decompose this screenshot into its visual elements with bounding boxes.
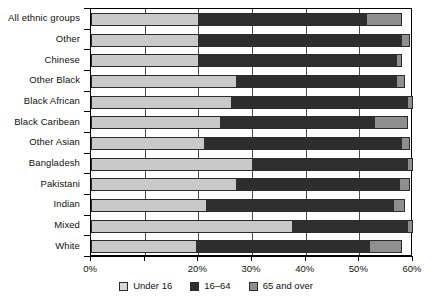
- bar-row[interactable]: [91, 240, 402, 253]
- bar-row[interactable]: [91, 116, 408, 129]
- x-axis-tick-label: 30%: [241, 263, 260, 274]
- bar-segment[interactable]: [91, 75, 236, 88]
- bar-row[interactable]: [91, 158, 413, 171]
- x-axis-tick-label: 20%: [188, 263, 207, 274]
- legend-item[interactable]: 65 and over: [249, 281, 313, 291]
- y-axis-label: Pakistani: [41, 179, 80, 189]
- y-axis-tick: [84, 29, 90, 30]
- bar-row[interactable]: [91, 13, 402, 26]
- y-axis-label: Other: [56, 34, 80, 44]
- y-axis-label: Black Caribean: [14, 117, 80, 127]
- bar-segment[interactable]: [231, 96, 408, 109]
- bar-segment[interactable]: [408, 220, 413, 233]
- bar-segment[interactable]: [402, 34, 410, 47]
- y-axis-label: Indian: [54, 199, 80, 209]
- bar-segment[interactable]: [91, 54, 198, 67]
- bar-segment[interactable]: [394, 199, 405, 212]
- bar-segment[interactable]: [198, 54, 397, 67]
- x-axis-tick-label: 0%: [83, 263, 97, 274]
- y-axis-label: Chinese: [44, 55, 80, 65]
- bar-row[interactable]: [91, 54, 402, 67]
- bar-segment[interactable]: [91, 178, 236, 191]
- x-axis-tick: [305, 256, 306, 261]
- bar-segment[interactable]: [91, 13, 198, 26]
- y-axis-tick: [84, 235, 90, 236]
- bar-segment[interactable]: [220, 116, 376, 129]
- legend-swatch-icon: [249, 282, 258, 291]
- bar-row[interactable]: [91, 34, 410, 47]
- legend-item[interactable]: Under 16: [119, 281, 172, 291]
- y-axis-label: White: [55, 241, 80, 251]
- bar-row[interactable]: [91, 75, 405, 88]
- y-axis-label: Bangladesh: [29, 158, 80, 168]
- bar-row[interactable]: [91, 96, 413, 109]
- x-axis-tick-label: 50%: [349, 263, 368, 274]
- y-axis-tick: [84, 70, 90, 71]
- legend-label: Under 16: [133, 281, 172, 291]
- bar-segment[interactable]: [91, 116, 220, 129]
- y-axis-tick: [84, 132, 90, 133]
- bar-segment[interactable]: [367, 13, 402, 26]
- bar-segment[interactable]: [204, 137, 403, 150]
- y-axis-tick: [84, 91, 90, 92]
- x-axis-tick-label: 40%: [295, 263, 314, 274]
- bar-segment[interactable]: [400, 178, 411, 191]
- y-axis-label: Other Asian: [29, 137, 80, 147]
- plot-area: [90, 8, 412, 256]
- bar-segment[interactable]: [91, 137, 204, 150]
- legend-label: 16–64: [204, 281, 230, 291]
- x-axis-tick: [90, 256, 91, 261]
- x-axis-tick: [358, 256, 359, 261]
- x-axis-tick-label: 60%: [402, 263, 421, 274]
- y-axis-label: All ethnic groups: [8, 13, 80, 23]
- bar-segment[interactable]: [198, 13, 367, 26]
- x-axis-tick: [197, 256, 198, 261]
- bar-segment[interactable]: [397, 75, 405, 88]
- bar-segment[interactable]: [397, 54, 402, 67]
- bar-segment[interactable]: [91, 158, 252, 171]
- y-axis-tick: [84, 111, 90, 112]
- bar-segment[interactable]: [91, 96, 231, 109]
- legend-item[interactable]: 16–64: [190, 281, 230, 291]
- legend-swatch-icon: [119, 282, 128, 291]
- bar-segment[interactable]: [375, 116, 407, 129]
- bar-segment[interactable]: [91, 199, 206, 212]
- y-axis-label: Black African: [24, 96, 80, 106]
- bar-segment[interactable]: [91, 220, 292, 233]
- x-axis-tick: [251, 256, 252, 261]
- x-axis-tick: [412, 256, 413, 261]
- bar-segment[interactable]: [196, 240, 370, 253]
- legend-swatch-icon: [190, 282, 199, 291]
- stacked-bar-chart: All ethnic groupsOtherChineseOther Black…: [0, 0, 432, 300]
- bar-segment[interactable]: [292, 220, 407, 233]
- bar-row[interactable]: [91, 220, 413, 233]
- bar-segment[interactable]: [91, 240, 196, 253]
- y-axis-labels: All ethnic groupsOtherChineseOther Black…: [0, 8, 84, 256]
- bar-segment[interactable]: [198, 34, 402, 47]
- legend-label: 65 and over: [263, 281, 313, 291]
- bar-row[interactable]: [91, 178, 410, 191]
- bar-segment[interactable]: [408, 158, 413, 171]
- y-axis-tick: [84, 173, 90, 174]
- bar-row[interactable]: [91, 199, 405, 212]
- y-axis-label: Other Black: [29, 75, 80, 85]
- bar-segment[interactable]: [236, 178, 400, 191]
- y-axis-label: Mixed: [54, 220, 80, 230]
- bar-segment[interactable]: [408, 96, 413, 109]
- bar-segment[interactable]: [252, 158, 408, 171]
- y-axis-tick: [84, 49, 90, 50]
- bar-row[interactable]: [91, 137, 410, 150]
- bar-segment[interactable]: [91, 34, 198, 47]
- y-axis-tick: [84, 153, 90, 154]
- bar-segment[interactable]: [206, 199, 394, 212]
- bar-segment[interactable]: [236, 75, 397, 88]
- y-axis-tick: [84, 215, 90, 216]
- x-axis-tick: [144, 256, 145, 261]
- y-axis-tick: [84, 194, 90, 195]
- bar-segment[interactable]: [370, 240, 402, 253]
- chart-legend: Under 1616–6465 and over: [0, 281, 432, 291]
- y-axis-tick: [84, 8, 90, 9]
- bar-segment[interactable]: [402, 137, 410, 150]
